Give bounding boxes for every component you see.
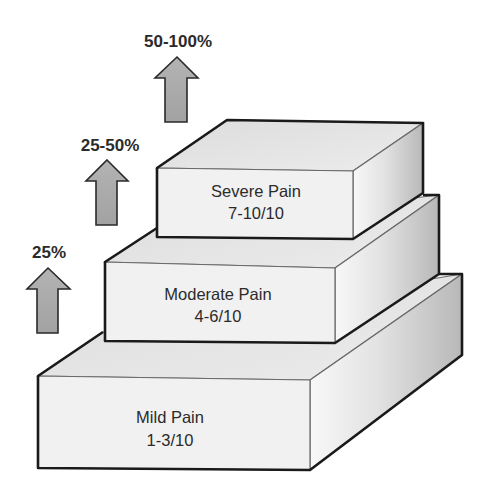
moderate-pain-title: Moderate Pain — [164, 285, 271, 303]
up-arrow-icon — [155, 57, 198, 122]
up-arrow-icon — [86, 160, 128, 225]
severe-pain-title: Severe Pain — [211, 182, 301, 200]
moderate-pain-range: 4-6/10 — [195, 307, 242, 325]
mild-pain-title: Mild Pain — [136, 408, 204, 426]
increase-label-25: 25% — [32, 243, 66, 262]
up-arrow-icon — [27, 268, 70, 333]
severe-pain-range: 7-10/10 — [228, 204, 284, 222]
pain-escalation-diagram: Severe Pain 7-10/10 Moderate Pain 4-6/10… — [0, 0, 489, 500]
increase-label-50-100: 50-100% — [144, 32, 212, 51]
mild-pain-range: 1-3/10 — [147, 431, 194, 449]
increase-label-25-50: 25-50% — [81, 136, 140, 155]
